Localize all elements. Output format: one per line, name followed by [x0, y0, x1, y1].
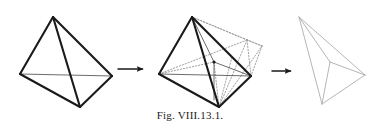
ghost-dotted-edge: [192, 17, 247, 40]
collapsed-edge: [299, 17, 330, 62]
collapsed-edge: [322, 62, 330, 104]
tetrahedron-solid: [20, 17, 112, 107]
figure-container: Fig. VIII.13.1.: [0, 0, 378, 128]
collapsed-edge: [299, 17, 365, 75]
tetrahedron-folding: [159, 17, 262, 107]
figure-caption: Fig. VIII.13.1.: [0, 109, 378, 121]
tetrahedron-edge: [80, 76, 112, 107]
ghost-dotted-edge: [251, 46, 262, 76]
fold-marker-point: [212, 60, 215, 63]
interior-edge: [20, 74, 112, 76]
tetrahedron-edge: [20, 17, 53, 74]
figure-caption-text: Fig. VIII.13.1.: [157, 109, 224, 121]
collapsed-edge: [299, 17, 322, 104]
tetrahedron-collapsed: [299, 17, 365, 104]
tetrahedron-edge: [219, 76, 251, 107]
collapsed-edge: [330, 62, 365, 75]
tetrahedron-edge: [159, 17, 192, 74]
transition-arrows: [118, 69, 291, 71]
collapsed-edge: [322, 75, 365, 104]
interior-edge: [159, 74, 251, 76]
ghost-dotted-edge: [247, 40, 251, 76]
